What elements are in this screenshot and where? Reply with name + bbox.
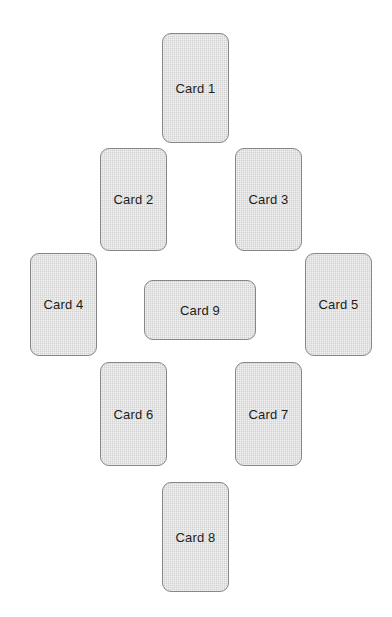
card-card-6[interactable]: Card 6 [100,362,167,466]
card-layout-canvas: Card 1Card 2Card 3Card 4Card 9Card 5Card… [0,0,392,617]
card-label: Card 9 [180,304,220,317]
card-card-5[interactable]: Card 5 [305,253,372,356]
card-label: Card 3 [249,193,289,206]
card-card-1[interactable]: Card 1 [162,33,229,143]
card-card-8[interactable]: Card 8 [162,482,229,592]
card-label: Card 4 [44,298,84,311]
card-label: Card 5 [319,298,359,311]
card-card-9[interactable]: Card 9 [144,280,256,340]
card-label: Card 1 [176,82,216,95]
card-card-3[interactable]: Card 3 [235,148,302,251]
card-label: Card 2 [114,193,154,206]
card-card-2[interactable]: Card 2 [100,148,167,251]
card-label: Card 8 [176,531,216,544]
card-card-4[interactable]: Card 4 [30,253,97,356]
card-label: Card 7 [249,408,289,421]
card-card-7[interactable]: Card 7 [235,362,302,466]
card-label: Card 6 [114,408,154,421]
